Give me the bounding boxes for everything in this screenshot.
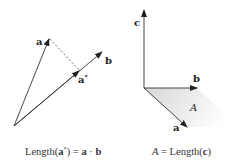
vector-a-arrow <box>14 39 49 126</box>
diagram-canvas: a b a* Length(a*) = a · b c b a A A = Le… <box>0 0 247 160</box>
label-a: a <box>173 122 180 133</box>
projection-diagram: a b a* Length(a*) = a · b <box>14 36 112 158</box>
label-area: A <box>189 102 197 113</box>
cross-product-diagram: c b a A A = Length(c) <box>134 10 240 158</box>
caption-projection: Length(a*) = a · b <box>25 145 101 158</box>
label-a-star: a* <box>78 73 88 85</box>
label-c: c <box>134 17 140 28</box>
vector-a-star-arrow <box>14 71 79 126</box>
label-a: a <box>36 36 43 47</box>
label-b: b <box>105 55 112 66</box>
projection-dashed-line <box>50 39 79 70</box>
label-b: b <box>193 73 200 84</box>
caption-cross-product: A = Length(c) <box>151 146 212 158</box>
